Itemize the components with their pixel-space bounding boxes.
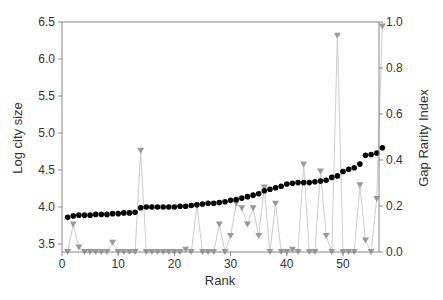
y-tick-label-right: 0.6 (386, 107, 403, 121)
city-size-point (368, 152, 374, 158)
city-size-point (323, 178, 329, 184)
city-size-point (104, 212, 110, 218)
city-size-point (200, 201, 206, 207)
city-size-point (239, 195, 245, 201)
city-size-point (284, 181, 290, 187)
x-tick-label: 30 (224, 257, 238, 271)
gap-rarity-marker (238, 205, 245, 211)
city-size-point (121, 210, 127, 216)
x-tick-label: 0 (59, 257, 66, 271)
city-size-point (70, 213, 76, 219)
y-tick-label-right: 0.8 (386, 61, 403, 75)
city-size-point (76, 212, 82, 218)
gap-rarity-marker (356, 182, 363, 188)
gap-rarity-marker (323, 233, 330, 239)
city-size-point (357, 161, 363, 167)
y-tick-label-left: 4.5 (38, 163, 55, 177)
city-size-point (262, 188, 268, 194)
gap-rarity-marker (70, 221, 77, 227)
city-size-point (273, 185, 279, 191)
city-size-point (250, 192, 256, 198)
dual-axis-chart: 3.54.04.55.05.56.06.50.00.20.40.60.81.00… (0, 0, 443, 300)
city-size-point (144, 204, 150, 210)
city-size-point (115, 211, 121, 217)
y-axis-label-right: Gap Rarity Index (416, 89, 431, 187)
plot-area (64, 24, 386, 255)
gap-rarity-marker (272, 201, 279, 207)
city-size-point (256, 191, 262, 197)
city-size-point (233, 197, 239, 203)
gap-rarity-marker (137, 148, 144, 154)
y-tick-label-right: 0.2 (386, 199, 403, 213)
city-size-point (194, 202, 200, 208)
y-tick-label-left: 6.0 (38, 52, 55, 66)
city-size-point (138, 205, 144, 211)
city-size-point (82, 212, 88, 218)
x-tick-label: 40 (280, 257, 294, 271)
city-size-point (188, 203, 194, 209)
city-size-point (87, 212, 93, 218)
x-axis-label: Rank (205, 273, 236, 288)
city-size-point (245, 194, 251, 200)
city-size-point (177, 203, 183, 209)
gap-rarity-marker (216, 221, 223, 227)
y-tick-label-left: 3.5 (38, 237, 55, 251)
city-size-point (329, 175, 335, 181)
city-size-point (166, 204, 172, 210)
y-tick-label-left: 6.5 (38, 15, 55, 29)
city-size-point (132, 209, 138, 215)
city-size-point (65, 215, 71, 221)
y-tick-label-left: 5.0 (38, 126, 55, 140)
city-size-point (351, 165, 357, 171)
y-tick-label-left: 5.5 (38, 89, 55, 103)
city-size-point (160, 204, 166, 210)
city-size-point (93, 212, 99, 218)
gap-rarity-marker (334, 33, 341, 39)
chart-container: 3.54.04.55.05.56.06.50.00.20.40.60.81.00… (0, 0, 443, 300)
y-tick-label-right: 0.0 (386, 245, 403, 259)
city-size-point (380, 145, 386, 151)
city-size-point (222, 199, 228, 205)
gap-rarity-marker (109, 240, 116, 246)
city-size-point (335, 173, 341, 179)
city-size-point (183, 203, 189, 209)
y-axis-label-left: Log city size (10, 102, 25, 174)
y-tick-label-right: 1.0 (386, 15, 403, 29)
city-size-point (172, 204, 178, 210)
city-size-point (267, 186, 273, 192)
city-size-point (318, 178, 324, 184)
gap-rarity-marker (362, 238, 369, 244)
gap-rarity-marker (250, 205, 257, 211)
city-size-point (340, 169, 346, 175)
city-size-point (312, 179, 318, 185)
city-size-point (211, 201, 217, 207)
city-size-point (278, 183, 284, 189)
gap-rarity-marker (379, 24, 386, 30)
gap-rarity-marker (244, 221, 251, 227)
y-tick-label-left: 4.0 (38, 200, 55, 214)
gap-rarity-marker (227, 233, 234, 239)
city-size-point (363, 152, 369, 158)
city-size-point (228, 198, 234, 204)
gap-rarity-marker (255, 233, 262, 239)
city-size-point (99, 212, 105, 218)
city-size-point (110, 211, 116, 217)
city-size-point (290, 181, 296, 187)
city-size-point (205, 201, 211, 207)
city-size-point (155, 204, 161, 210)
x-tick-label: 10 (112, 257, 126, 271)
gap-rarity-marker (317, 169, 324, 175)
gap-rarity-line (68, 27, 383, 252)
city-size-point (217, 200, 223, 206)
x-tick-label: 20 (168, 257, 182, 271)
gap-rarity-marker (300, 162, 307, 168)
x-tick-label: 50 (336, 257, 350, 271)
city-size-point (301, 180, 307, 186)
city-size-point (306, 180, 312, 186)
y-tick-label-right: 0.4 (386, 153, 403, 167)
city-size-point (295, 180, 301, 186)
city-size-point (127, 210, 133, 216)
city-size-point (346, 166, 352, 172)
city-size-point (149, 204, 155, 210)
